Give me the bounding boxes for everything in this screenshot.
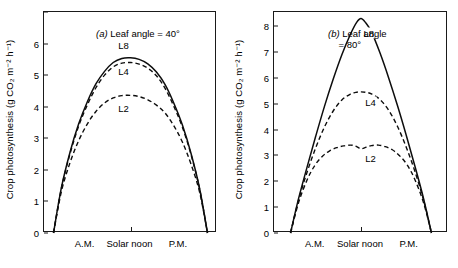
x-tick-label: A.M. <box>75 238 95 249</box>
y-tick-label: 3 <box>34 133 44 144</box>
panel-b-title: (b) Leaf angle = 80° <box>328 28 387 50</box>
y-tick-label: 6 <box>34 38 44 49</box>
y-tick-mark <box>44 169 48 170</box>
y-tick-mark <box>44 201 48 202</box>
curve-l2 <box>54 95 208 233</box>
y-axis-label-text-a: Crop photosynthesis (g CO₂ m⁻² h⁻¹) <box>5 39 16 199</box>
y-tick-mark <box>274 52 278 53</box>
y-tick-mark-unlabeled <box>44 12 48 13</box>
x-tick-label: A.M. <box>305 238 325 249</box>
y-tick-mark <box>44 75 48 76</box>
y-tick-mark <box>44 233 48 234</box>
y-axis-label-panel-b: Crop photosynthesis (g CO₂ m⁻² h⁻¹) <box>231 0 247 238</box>
y-tick-mark <box>274 129 278 130</box>
y-tick-mark <box>274 26 278 27</box>
y-tick-label: 1 <box>264 202 274 213</box>
y-tick-mark <box>274 155 278 156</box>
y-tick-label: 0 <box>264 228 274 239</box>
y-tick-mark <box>44 43 48 44</box>
y-tick-label: 8 <box>264 21 274 32</box>
x-tick-mark-solar-noon <box>361 227 362 231</box>
x-tick-label: Solar noon <box>337 238 383 249</box>
curve-label-l4: L4 <box>364 96 377 107</box>
figure-two-panel-chart: Crop photosynthesis (g CO₂ m⁻² h⁻¹) (a) … <box>0 0 458 268</box>
y-tick-mark <box>274 181 278 182</box>
y-tick-label: 4 <box>34 101 44 112</box>
curve-label-l2: L2 <box>117 103 130 114</box>
y-tick-label: 5 <box>264 98 274 109</box>
curve-label-l8: L8 <box>117 40 130 51</box>
plot-area-panel-a: (a) Leaf angle = 40° 0123456L8L4L2 <box>43 11 216 232</box>
y-tick-label: 0 <box>34 228 44 239</box>
curve-l8 <box>291 18 432 233</box>
panel-a-title: (a) Leaf angle = 40° <box>96 28 180 39</box>
curve-l4 <box>291 92 432 233</box>
x-tick-label: P.M. <box>169 238 187 249</box>
y-tick-mark <box>274 103 278 104</box>
y-tick-label: 4 <box>264 124 274 135</box>
plot-area-panel-b: (b) Leaf angle = 80° 012345678L8L4L2 <box>273 11 447 232</box>
y-tick-label: 2 <box>34 164 44 175</box>
x-tick-label: P.M. <box>400 238 418 249</box>
y-tick-mark <box>274 233 278 234</box>
curve-label-l2: L2 <box>364 152 377 163</box>
y-tick-label: 5 <box>34 70 44 81</box>
y-tick-mark <box>274 77 278 78</box>
y-tick-mark <box>44 138 48 139</box>
panel-a: Crop photosynthesis (g CO₂ m⁻² h⁻¹) (a) … <box>0 0 229 268</box>
y-tick-label: 2 <box>264 176 274 187</box>
y-tick-mark <box>44 106 48 107</box>
y-tick-label: 6 <box>264 72 274 83</box>
y-tick-label: 1 <box>34 196 44 207</box>
y-axis-label-panel-a: Crop photosynthesis (g CO₂ m⁻² h⁻¹) <box>2 0 18 238</box>
x-tick-label: Solar noon <box>107 238 153 249</box>
y-tick-label: 3 <box>264 150 274 161</box>
panel-b: Crop photosynthesis (g CO₂ m⁻² h⁻¹) (b) … <box>229 0 458 268</box>
y-tick-label: 7 <box>264 47 274 58</box>
y-axis-label-text-b: Crop photosynthesis (g CO₂ m⁻² h⁻¹) <box>234 39 245 199</box>
y-tick-mark <box>274 207 278 208</box>
x-tick-mark-solar-noon <box>131 227 132 231</box>
curves-panel-a <box>44 12 217 233</box>
curve-label-l4: L4 <box>117 66 130 77</box>
